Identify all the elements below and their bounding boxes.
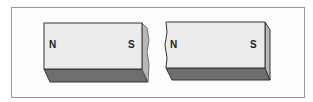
- north-pole-label: N: [49, 39, 56, 50]
- magnet-bottom-face: [44, 69, 148, 82]
- south-pole-label: S: [250, 39, 257, 50]
- magnet-bottom-face: [166, 68, 270, 80]
- magnet-diagram: N S N S: [0, 0, 313, 102]
- magnet-right-piece: N S: [165, 22, 270, 80]
- north-pole-label: N: [170, 39, 177, 50]
- magnet-left-piece: N S: [44, 23, 149, 82]
- south-pole-label: S: [128, 39, 135, 50]
